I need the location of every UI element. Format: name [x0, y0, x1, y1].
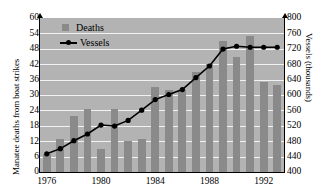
x-axis-spine — [39, 172, 285, 173]
y-axis-left-tick-label: 30 — [30, 90, 40, 100]
vessels-data-point — [180, 87, 185, 92]
vessels-data-point — [193, 75, 198, 80]
y-axis-right-tick-label: 640 — [287, 75, 301, 85]
y-axis-left-tick-label: 42 — [30, 60, 40, 70]
y-axis-left-tick-label: 54 — [30, 29, 40, 39]
y-axis-left-tick-label: 18 — [30, 121, 40, 131]
vessels-data-point — [126, 118, 131, 123]
y-axis-right-title: Vessels (thousands) — [304, 33, 314, 102]
vessels-data-point — [275, 45, 280, 50]
x-axis-tick-label: 1988 — [193, 177, 225, 187]
y-axis-right-tick-label: 400 — [287, 167, 301, 177]
y-axis-left-title: Manatee deaths from boat strikes — [11, 59, 21, 175]
x-axis-tick-label: 1980 — [85, 177, 117, 187]
y-axis-left-tick-label: 36 — [30, 75, 40, 85]
y-axis-left-tick-label: 12 — [30, 137, 40, 147]
y-axis-right-tick-label: 560 — [287, 106, 301, 116]
x-axis-tick-label: 1976 — [31, 177, 63, 187]
vessels-data-point — [261, 45, 266, 50]
y-axis-left-spine — [39, 18, 40, 173]
chart-legend: Deaths Vessels — [60, 20, 109, 50]
vessels-data-point — [207, 63, 212, 68]
vessels-data-point — [98, 122, 103, 127]
vessels-data-point — [153, 97, 158, 102]
y-axis-left-tick-label: 24 — [30, 106, 40, 116]
chart-container: Manatee deaths from boat strikes Vessels… — [0, 0, 323, 194]
vessels-data-point — [234, 44, 239, 49]
vessels-data-point — [112, 123, 117, 128]
y-axis-right-tick-label: 520 — [287, 121, 301, 131]
y-axis-left-tick-label: 60 — [30, 13, 40, 23]
y-axis-right-spine — [284, 18, 285, 173]
vessels-data-point — [166, 92, 171, 97]
vessels-line — [47, 46, 277, 154]
y-axis-right-tick-label: 480 — [287, 137, 301, 147]
y-axis-right-tick-label: 760 — [287, 29, 301, 39]
vessels-data-point — [139, 108, 144, 113]
legend-label-vessels: Vessels — [80, 38, 109, 48]
y-axis-right-tick-label: 440 — [287, 152, 301, 162]
legend-label-deaths: Deaths — [76, 23, 104, 33]
vessels-data-point — [71, 138, 76, 143]
y-axis-right-tick-label: 680 — [287, 60, 301, 70]
vessels-markers — [44, 44, 280, 157]
vessels-data-point — [85, 131, 90, 136]
y-axis-left-tick-label: 48 — [30, 44, 40, 54]
vessels-data-point — [220, 46, 225, 51]
y-axis-right-tick-label: 720 — [287, 44, 301, 54]
vessels-data-point — [248, 45, 253, 50]
y-axis-right-tick-label: 800 — [287, 13, 301, 23]
x-axis-tick-label: 1984 — [139, 177, 171, 187]
x-axis-tick-label: 1992 — [248, 177, 280, 187]
legend-square-icon — [62, 24, 69, 31]
y-axis-right-tick-label: 600 — [287, 90, 301, 100]
legend-item-vessels: Vessels — [60, 35, 109, 50]
legend-item-deaths: Deaths — [60, 20, 109, 35]
vessels-data-point — [44, 151, 49, 156]
vessels-data-point — [58, 146, 63, 151]
legend-line-dot-icon — [60, 39, 77, 46]
y-axis-left-tick-label: 6 — [34, 152, 39, 162]
